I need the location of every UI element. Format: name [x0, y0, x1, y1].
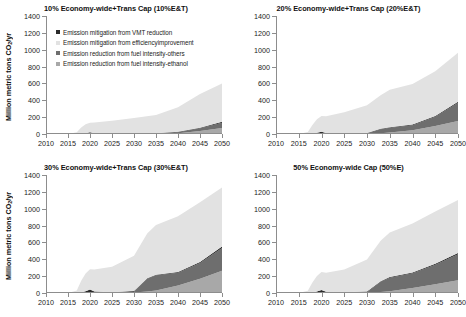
y-tick: [42, 50, 46, 51]
y-tick: [272, 100, 276, 101]
x-tick-label: 2010: [38, 298, 54, 307]
x-tick-label: 2020: [82, 298, 98, 307]
y-tick: [42, 175, 46, 176]
x-tick: [276, 134, 277, 138]
legend-swatch-icon: [56, 51, 60, 55]
y-tick-label: 200: [28, 113, 40, 122]
x-tick-label: 2030: [359, 298, 375, 307]
y-tick: [272, 192, 276, 193]
y-tick: [42, 259, 46, 260]
x-tick-label: 2010: [268, 298, 284, 307]
x-tick: [435, 293, 436, 297]
legend-fuel-intensity-ethanol: Emission reduction from fuel intensity-e…: [56, 59, 194, 70]
y-tick-label: 1000: [24, 204, 40, 213]
y-tick-label: 0: [266, 130, 270, 139]
x-tick: [367, 293, 368, 297]
x-tick-label: 2020: [82, 139, 98, 148]
x-tick: [112, 293, 113, 297]
x-tick-label: 2020: [314, 139, 330, 148]
legend-fuel-intensity-others: Emission reduction from fuel intensity-o…: [56, 48, 194, 59]
x-tick: [156, 134, 157, 138]
x-tick-label: 2035: [148, 139, 164, 148]
y-tick-label: 0: [266, 289, 270, 298]
x-tick: [178, 293, 179, 297]
x-tick: [90, 134, 91, 138]
y-tick-label: 200: [28, 272, 40, 281]
y-tick-label: 1400: [24, 171, 40, 180]
y-axis-title-panel3: Million metric tons CO2/yr: [2, 177, 16, 295]
x-tick: [200, 293, 201, 297]
x-tick-label: 2050: [450, 298, 466, 307]
x-tick-label: 2035: [382, 139, 398, 148]
y-tick: [42, 16, 46, 17]
y-tick: [42, 276, 46, 277]
y-axis-line: [46, 16, 47, 134]
x-tick-label: 2035: [148, 298, 164, 307]
y-tick: [42, 192, 46, 193]
x-tick-label: 2015: [60, 139, 76, 148]
x-tick: [344, 134, 345, 138]
y-axis-title-tail: /yr: [4, 192, 13, 201]
x-tick-label: 2030: [126, 139, 142, 148]
x-tick: [134, 134, 135, 138]
legend-label: Emission mitigation from efficiencyimpro…: [63, 39, 194, 46]
y-tick-label: 800: [28, 221, 40, 230]
y-tick: [272, 50, 276, 51]
x-tick-label: 2030: [359, 139, 375, 148]
x-tick-label: 2015: [291, 139, 307, 148]
y-tick: [272, 226, 276, 227]
chart-panel-10ET: 10% Economy-wide+Trans Cap (10%E&T) Mill…: [0, 0, 232, 159]
x-tick: [299, 293, 300, 297]
y-axis-line: [276, 16, 277, 134]
y-tick: [42, 209, 46, 210]
legend-swatch-icon: [56, 41, 60, 45]
x-tick: [156, 293, 157, 297]
x-tick-label: 2045: [192, 298, 208, 307]
x-tick: [222, 293, 223, 297]
y-tick-label: 1200: [254, 187, 270, 196]
y-tick: [272, 67, 276, 68]
y-axis-title-sub: 2: [7, 201, 13, 204]
y-tick-label: 800: [258, 221, 270, 230]
y-tick: [272, 16, 276, 17]
y-axis-title-main: Million metric tons CO: [4, 45, 13, 121]
y-tick-label: 600: [28, 79, 40, 88]
y-tick-label: 200: [258, 113, 270, 122]
y-tick-label: 1000: [24, 45, 40, 54]
x-tick: [413, 134, 414, 138]
y-tick-label: 1200: [24, 28, 40, 37]
y-tick: [42, 242, 46, 243]
plot-area-30ET: 0200400600800100012001400201020152020202…: [46, 175, 222, 293]
x-tick: [458, 293, 459, 297]
x-tick: [222, 134, 223, 138]
plot-area-20ET: 0200400600800100012001400201020152020202…: [276, 16, 458, 134]
x-tick: [178, 134, 179, 138]
chart-panel-30ET: 30% Economy-wide+Trans Cap (30%E&T) Mill…: [0, 159, 232, 317]
x-tick: [68, 293, 69, 297]
y-tick-label: 1200: [254, 28, 270, 37]
y-tick-label: 0: [36, 289, 40, 298]
y-tick-label: 1000: [254, 204, 270, 213]
legend-efficiency-improvement: Emission mitigation from efficiencyimpro…: [56, 38, 194, 49]
area-band: [46, 84, 222, 134]
x-tick-label: 2025: [336, 298, 352, 307]
y-tick: [42, 83, 46, 84]
y-tick: [272, 242, 276, 243]
x-tick: [344, 293, 345, 297]
y-tick: [42, 33, 46, 34]
y-tick: [42, 117, 46, 118]
y-tick: [272, 83, 276, 84]
y-axis-title-sub: 2: [7, 42, 13, 45]
y-tick-label: 1400: [24, 12, 40, 21]
x-tick: [200, 134, 201, 138]
x-tick: [46, 293, 47, 297]
x-tick: [435, 134, 436, 138]
y-axis-line: [276, 175, 277, 293]
y-tick-label: 1000: [254, 45, 270, 54]
y-tick: [272, 209, 276, 210]
y-tick: [42, 100, 46, 101]
y-tick-label: 400: [258, 96, 270, 105]
x-tick: [112, 134, 113, 138]
y-tick: [272, 33, 276, 34]
